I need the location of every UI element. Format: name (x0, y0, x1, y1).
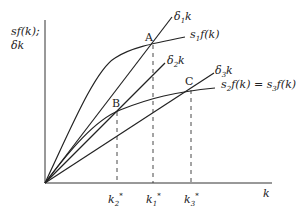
point-a-label: A (144, 31, 154, 44)
k3-star-label: k3* (184, 192, 199, 208)
y-axis-label-line1: sf(k); (11, 25, 40, 38)
delta2-label: δ2k (167, 54, 185, 69)
point-b-label: B (112, 97, 120, 110)
s1f-curve (45, 37, 185, 183)
delta2-line (45, 63, 165, 183)
solow-model-diagram: sf(k); δk A B C δ1k s1f(k) δ2k δ3k s2f(k… (0, 0, 306, 217)
y-axis-label-line2: δk (11, 39, 25, 52)
k2-star-label: k2* (108, 192, 123, 208)
point-c-label: C (185, 75, 193, 88)
s2f-s3f-label: s2f(k) = s3f(k) (221, 78, 296, 93)
x-axis-label: k (263, 187, 270, 200)
delta1-label: δ1k (174, 10, 192, 25)
delta3-label: δ3k (215, 64, 233, 79)
k1-star-label: k1* (146, 192, 161, 208)
s2f-curve (45, 88, 215, 183)
s1f-label: s1f(k) (190, 28, 219, 43)
